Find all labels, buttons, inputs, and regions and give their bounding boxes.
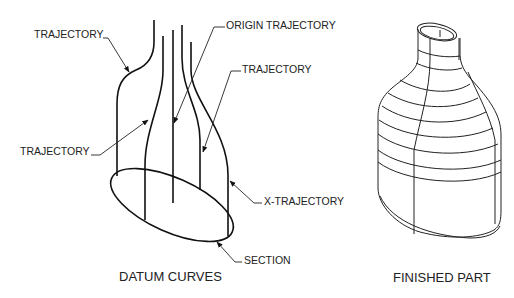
neck-opening-inner xyxy=(419,24,455,43)
leader-trajectory-left xyxy=(91,120,148,155)
label-x-trajectory: X-TRAJECTORY xyxy=(264,195,344,207)
finished-part-drawing: FINISHED PART xyxy=(378,20,501,285)
leader-section xyxy=(217,242,242,262)
finished-part-title: FINISHED PART xyxy=(393,270,491,285)
trajectory-curve-left xyxy=(117,20,154,176)
part-left-silhouette xyxy=(378,29,418,120)
label-trajectory-right: TRAJECTORY xyxy=(242,63,312,75)
label-trajectory-left: TRAJECTORY xyxy=(20,145,90,157)
section-ellipse xyxy=(101,153,244,256)
label-origin-trajectory: ORIGIN TRAJECTORY xyxy=(226,19,336,31)
label-section: SECTION xyxy=(244,254,291,266)
datum-curves-drawing: TRAJECTORY ORIGIN TRAJECTORY TRAJECTORY … xyxy=(20,19,344,284)
leader-trajectory-top xyxy=(103,38,129,72)
leader-x-trajectory xyxy=(230,181,262,203)
diagram-canvas: TRAJECTORY ORIGIN TRAJECTORY TRAJECTORY … xyxy=(0,0,514,298)
neck-opening-outer xyxy=(416,20,458,44)
datum-curves-title: DATUM CURVES xyxy=(119,269,222,284)
trajectory-curve-inner-left xyxy=(145,36,163,220)
label-trajectory-top: TRAJECTORY xyxy=(34,28,104,40)
leader-trajectory-right xyxy=(203,71,241,152)
